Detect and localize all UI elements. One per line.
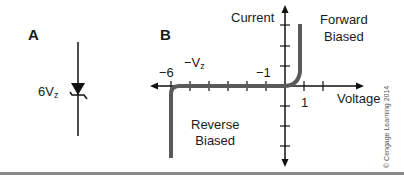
panel-b-label: B (160, 26, 171, 43)
reverse-label-line2: Biased (191, 133, 239, 149)
bottom-divider (0, 172, 404, 175)
forward-biased-label: Forward Biased (320, 11, 368, 45)
vz-main: −V (184, 55, 200, 70)
copyright-notice: © Cengage Learning 2014 (383, 86, 390, 168)
vz-sub: z (200, 61, 205, 71)
forward-label-line1: Forward (320, 11, 368, 28)
tick-label-neg6: −6 (159, 65, 174, 80)
forward-label-line2: Biased (320, 28, 368, 45)
zener-diode-icon (70, 42, 87, 136)
zener-voltage-marker: −Vz (184, 55, 205, 71)
tick-label-pos1: 1 (301, 95, 308, 110)
voltage-axis-label: Voltage (337, 91, 380, 106)
reverse-label-line1: Reverse (191, 117, 239, 133)
tick-label-neg1: −1 (256, 65, 271, 80)
current-axis-label: Current (231, 10, 274, 25)
reverse-biased-label: Reverse Biased (191, 117, 239, 149)
